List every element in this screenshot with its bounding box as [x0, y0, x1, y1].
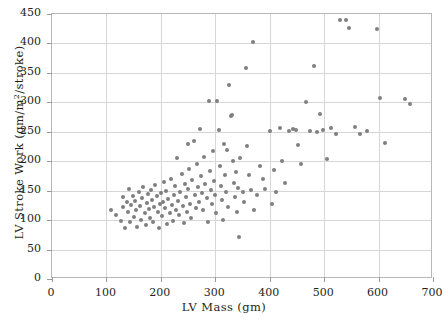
data-point: [133, 199, 137, 203]
data-point: [258, 164, 262, 168]
data-point: [237, 235, 241, 239]
data-point: [210, 202, 214, 206]
data-point: [173, 184, 177, 188]
data-point: [274, 190, 278, 194]
data-point: [217, 128, 221, 132]
data-point: [151, 220, 155, 224]
data-point: [378, 96, 382, 100]
y-axis-tick-label: 150: [0, 184, 41, 195]
data-point: [129, 203, 133, 207]
data-point: [134, 208, 138, 212]
data-point: [278, 126, 282, 130]
scatter-plot-figure: LV Stroke Work (gm/m2/stroke) LV Mass (g…: [0, 0, 448, 326]
data-point: [195, 162, 199, 166]
y-axis-tick: [47, 191, 52, 192]
data-point: [209, 188, 213, 192]
data-point: [172, 193, 176, 197]
data-point: [225, 148, 229, 152]
data-point: [138, 204, 142, 208]
data-point: [178, 190, 182, 194]
gridline-vertical: [379, 14, 380, 277]
data-point: [218, 164, 222, 168]
data-point: [408, 102, 412, 106]
data-point: [344, 18, 348, 22]
data-point: [200, 191, 204, 195]
data-point: [365, 129, 369, 133]
data-point: [294, 128, 298, 132]
data-point: [123, 226, 127, 230]
data-point: [308, 129, 312, 133]
data-point: [202, 155, 206, 159]
data-point: [252, 208, 256, 212]
data-point: [144, 223, 148, 227]
gridline-vertical: [161, 14, 162, 277]
x-axis-tick-label: 300: [194, 287, 234, 298]
y-axis-tick-label: 350: [0, 66, 41, 77]
data-point: [221, 218, 225, 222]
x-axis-tick: [106, 277, 107, 282]
x-axis-tick: [270, 277, 271, 282]
data-point: [147, 207, 151, 211]
data-point: [198, 127, 202, 131]
data-point: [192, 139, 196, 143]
gridline-horizontal: [52, 132, 431, 133]
data-point: [182, 221, 186, 225]
data-point: [299, 162, 303, 166]
y-axis-tick: [47, 132, 52, 133]
gridline-horizontal: [52, 161, 431, 162]
data-point: [141, 185, 145, 189]
data-point: [162, 180, 166, 184]
gridline-horizontal: [52, 73, 431, 74]
data-point: [222, 142, 226, 146]
data-point: [247, 173, 251, 177]
data-point: [224, 190, 228, 194]
data-point: [214, 211, 218, 215]
data-point: [187, 167, 191, 171]
data-point: [128, 220, 132, 224]
y-axis-tick-label: 0: [0, 272, 41, 283]
data-point: [315, 130, 319, 134]
x-axis-tick-label: 600: [358, 287, 398, 298]
data-point: [139, 218, 143, 222]
data-point: [270, 202, 274, 206]
data-point: [152, 205, 156, 209]
gridline-horizontal: [52, 102, 431, 103]
data-point: [338, 18, 342, 22]
data-point: [170, 203, 174, 207]
y-axis-tick-label: 100: [0, 213, 41, 224]
x-axis-tick: [52, 277, 53, 282]
data-point: [232, 181, 236, 185]
data-point: [244, 66, 248, 70]
data-point: [155, 194, 159, 198]
gridline-vertical: [215, 14, 216, 277]
data-point: [188, 202, 192, 206]
data-point: [226, 205, 230, 209]
data-point: [143, 211, 147, 215]
data-point: [194, 206, 198, 210]
data-point: [121, 205, 125, 209]
x-axis-tick-label: 100: [85, 287, 125, 298]
y-axis-tick: [47, 220, 52, 221]
data-point: [353, 125, 357, 129]
data-point: [255, 193, 259, 197]
y-axis-tick-label: 300: [0, 95, 41, 106]
x-axis-tick-label: 0: [31, 287, 71, 298]
data-point: [137, 190, 141, 194]
data-point: [261, 177, 265, 181]
data-point: [121, 195, 125, 199]
y-axis-tick: [47, 250, 52, 251]
data-point: [304, 100, 308, 104]
data-point: [238, 156, 242, 160]
x-axis-tick: [161, 277, 162, 282]
data-point: [280, 159, 284, 163]
data-point: [126, 210, 130, 214]
data-point: [109, 208, 113, 212]
data-point: [201, 208, 205, 212]
x-axis-title: LV Mass (gm): [0, 300, 448, 314]
data-point: [156, 210, 160, 214]
data-point: [296, 143, 300, 147]
y-axis-tick: [47, 102, 52, 103]
gridline-vertical: [324, 14, 325, 277]
data-point: [383, 141, 387, 145]
data-point: [186, 142, 190, 146]
